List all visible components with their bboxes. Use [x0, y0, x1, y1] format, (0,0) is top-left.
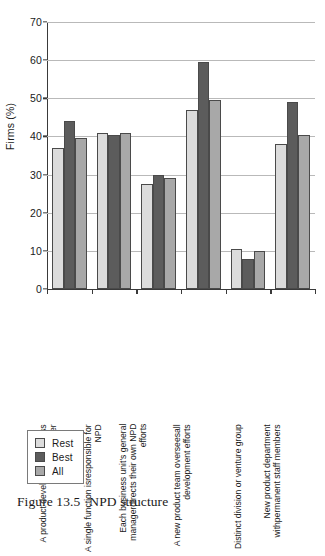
x-tick	[315, 289, 316, 294]
bar-group	[270, 22, 315, 289]
x-axis-label: Each business unit's general managerdire…	[118, 424, 149, 556]
x-axis-label: A new product team overseesall developme…	[173, 424, 193, 556]
legend: RestBestAll	[27, 430, 84, 484]
x-label-slot: Each business unit's general managerdire…	[136, 294, 181, 426]
legend-swatch-best	[35, 452, 45, 462]
legend-item-rest: Rest	[35, 436, 73, 450]
bar-rest	[231, 249, 243, 289]
bar-all	[75, 138, 87, 289]
caption-number: Figure 13.5	[17, 494, 80, 509]
x-axis-label-line: permanent staff members	[272, 424, 282, 522]
bar-best	[153, 175, 165, 289]
bar-all	[254, 251, 266, 289]
bars-layer	[47, 22, 315, 289]
x-axis-label: Distinct division or venture group	[233, 424, 243, 556]
bar-best	[64, 121, 76, 289]
legend-swatch-all	[35, 466, 45, 476]
bar-best	[242, 259, 254, 289]
bar-best	[108, 135, 120, 289]
bar-group	[92, 22, 137, 289]
bar-rest	[141, 184, 153, 289]
legend-label-best: Best	[52, 452, 73, 463]
legend-label-rest: Rest	[52, 438, 73, 449]
bar-rest	[52, 148, 64, 289]
plot-area: 010203040506070	[47, 22, 315, 289]
bar-group	[47, 22, 92, 289]
x-label-slot: Distinct division or venture group	[226, 294, 271, 426]
bar-group	[226, 22, 271, 289]
x-axis-label: New product department withpermanent sta…	[262, 424, 282, 556]
x-axis-label: A single function isresponsible for NPD	[83, 424, 103, 556]
bar-all	[298, 135, 310, 289]
bar-rest	[186, 110, 198, 289]
bar-rest	[275, 144, 287, 289]
legend-label-all: All	[52, 466, 64, 477]
x-axis-label-line: A single function is	[83, 480, 93, 551]
bar-group	[136, 22, 181, 289]
x-label-slot: A single function isresponsible for NPD	[92, 294, 137, 426]
caption-title: NPD structure	[89, 494, 168, 509]
y-axis-title: Firms (%)	[4, 103, 16, 150]
bar-group	[181, 22, 226, 289]
bar-best	[287, 102, 299, 289]
x-axis-label-line: Distinct division or venture group	[233, 424, 243, 549]
x-label-slot: A product developmentprocess owner	[47, 294, 92, 426]
x-label-slot: A new product team overseesall developme…	[181, 294, 226, 426]
figure-caption: Figure 13.5NPD structure	[17, 494, 168, 510]
x-axis-label-line: A new product team oversees	[173, 433, 183, 546]
bar-all	[209, 100, 221, 289]
legend-item-all: All	[35, 464, 73, 478]
legend-swatch-rest	[35, 438, 45, 448]
bar-all	[164, 178, 176, 289]
bar-rest	[97, 133, 109, 289]
bar-best	[198, 62, 210, 289]
x-axis-labels: A product developmentprocess ownerA sing…	[47, 294, 315, 426]
bar-all	[120, 133, 132, 289]
legend-item-best: Best	[35, 450, 73, 464]
x-label-slot: New product department withpermanent sta…	[270, 294, 315, 426]
x-axis-label-line: responsible for NPD	[83, 424, 103, 480]
